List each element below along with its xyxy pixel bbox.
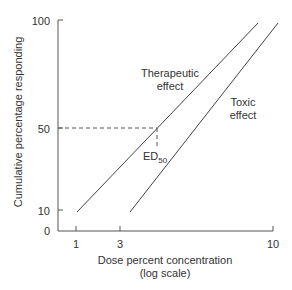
y-tick-label-10: 10 <box>38 205 50 217</box>
y-tick-label-0: 0 <box>44 225 50 237</box>
x-tick-label-3: 3 <box>117 238 123 250</box>
x-tick-label-10: 10 <box>267 238 279 250</box>
x-axis-label-line2: (log scale) <box>140 267 191 279</box>
therapeutic-label-line1: Therapeutic <box>141 67 200 79</box>
toxic-label-line1: Toxic <box>230 96 256 108</box>
x-axis-label-line1: Dose percent concentration <box>98 254 233 266</box>
y-tick-label-100: 100 <box>32 15 50 27</box>
dose-response-chart: 100 50 10 0 1 3 10 Dose percent concentr… <box>0 0 292 290</box>
y-axis-label: Cumulative percentage responding <box>12 37 24 208</box>
toxic-label-line2: effect <box>230 109 257 121</box>
therapeutic-label-line2: effect <box>157 80 184 92</box>
y-tick-label-50: 50 <box>38 123 50 135</box>
ed50-label: ED50 <box>143 150 168 165</box>
x-tick-label-1: 1 <box>73 238 79 250</box>
